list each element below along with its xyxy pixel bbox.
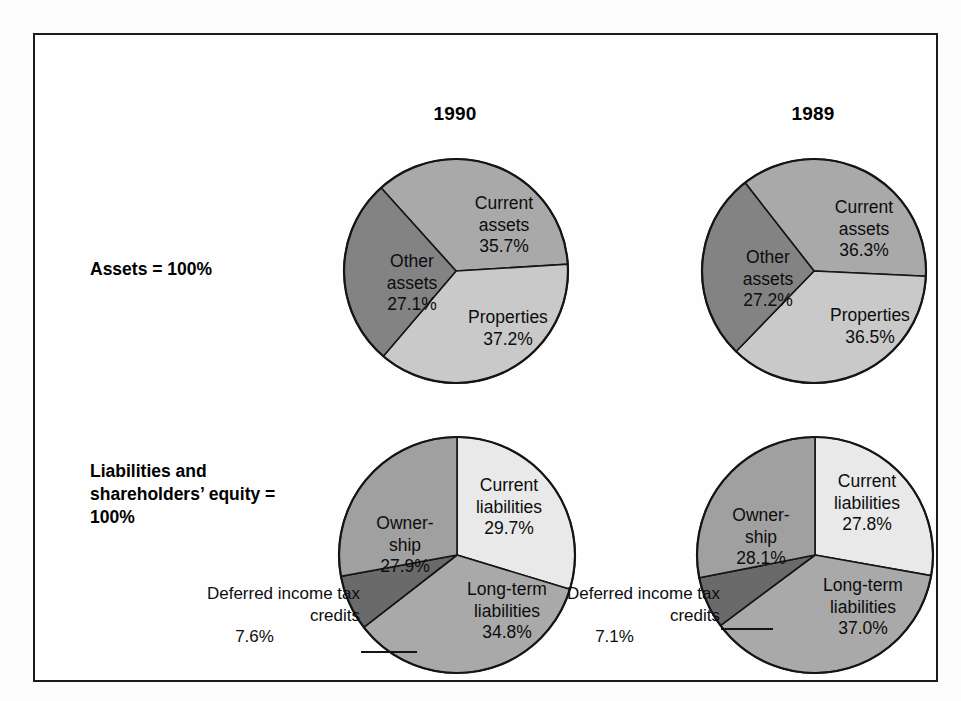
pie-svg-assets-1989 <box>698 155 930 387</box>
callout-value-1990: 7.6% <box>155 626 360 648</box>
callout-deferred-tax-1990: Deferred income tax credits 7.6% <box>155 583 360 648</box>
row-label-assets: Assets = 100% <box>90 258 320 281</box>
figure-frame: 1990 1989 Assets = 100% Liabilities and … <box>33 33 938 682</box>
callout-text-1989: Deferred income tax credits <box>515 583 720 626</box>
pie-slice-liabilities-1989-0 <box>815 437 933 576</box>
pie-chart-liabilities-1989: Current liabilities 27.8%Long-term liabi… <box>693 433 937 677</box>
page-background: 1990 1989 Assets = 100% Liabilities and … <box>0 0 961 701</box>
row-label-liabilities: Liabilities and shareholders’ equity = 1… <box>90 460 310 529</box>
pie-chart-assets-1990: Current assets 35.7%Properties 37.2%Othe… <box>340 155 572 387</box>
leader-line-1989 <box>721 628 773 630</box>
pie-svg-assets-1990 <box>340 155 572 387</box>
pie-slice-liabilities-1990-3 <box>339 437 457 576</box>
pie-svg-liabilities-1989 <box>693 433 937 677</box>
leader-line-1990 <box>361 651 417 653</box>
callout-text-1990: Deferred income tax credits <box>155 583 360 626</box>
pie-slice-liabilities-1989-3 <box>697 437 815 578</box>
callout-value-1989: 7.1% <box>515 626 720 648</box>
pie-chart-assets-1989: Current assets 36.3%Properties 36.5%Othe… <box>698 155 930 387</box>
column-header-1989: 1989 <box>753 103 873 125</box>
column-header-1990: 1990 <box>395 103 515 125</box>
callout-deferred-tax-1989: Deferred income tax credits 7.1% <box>515 583 720 648</box>
